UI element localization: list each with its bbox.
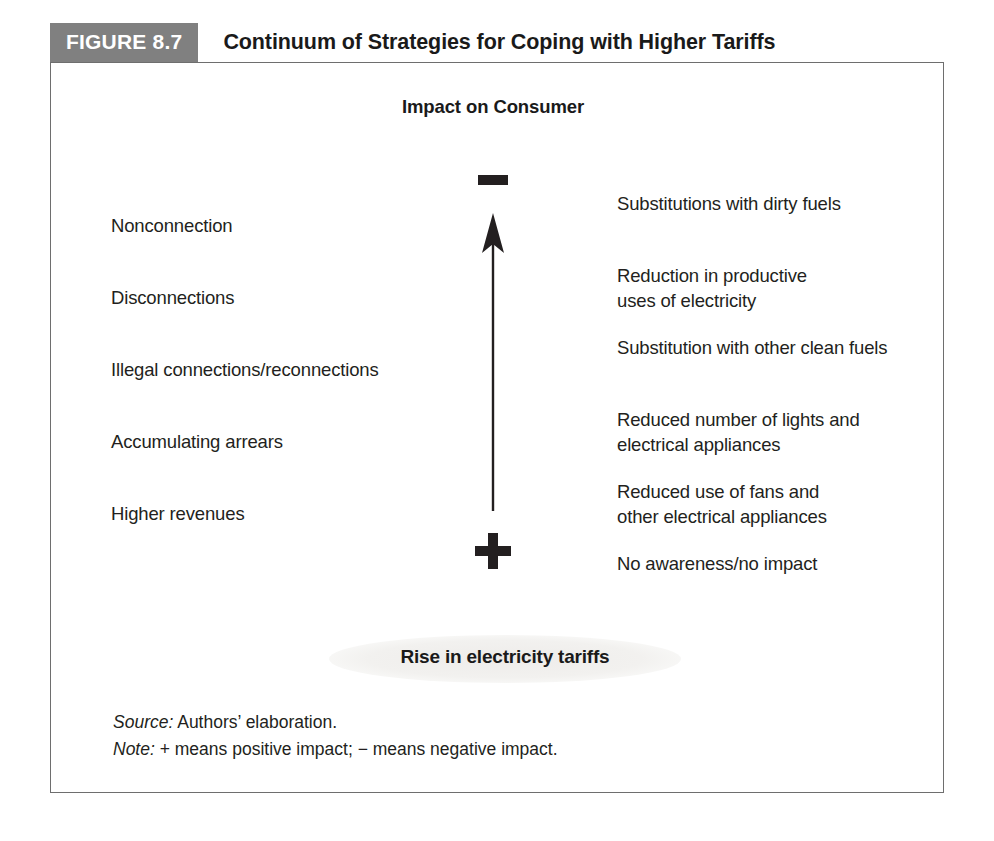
right-strategy-column: Substitutions with dirty fuels Reduction…: [617, 191, 937, 623]
plus-sign: [475, 533, 511, 569]
list-item: No awareness/no impact: [617, 551, 937, 623]
right-item-label-line: Reduced number of lights and: [617, 407, 937, 432]
right-item-label-line: Reduction in productive: [617, 263, 937, 288]
list-item: Higher revenues: [111, 503, 421, 575]
source-line: Source: Authors’ elaboration.: [113, 709, 873, 736]
list-item: Accumulating arrears: [111, 431, 421, 503]
right-item-label-line: No awareness/no impact: [617, 551, 937, 576]
figure-number-badge: FIGURE 8.7: [50, 23, 198, 62]
note-line: Note: + means positive impact; − means n…: [113, 736, 873, 763]
tariff-base-label: Rise in electricity tariffs: [329, 646, 681, 668]
source-text: Authors’ elaboration.: [177, 712, 337, 732]
impact-on-consumer-heading: Impact on Consumer: [51, 96, 945, 118]
impact-on-consumer-heading-text: Impact on Consumer: [402, 96, 584, 117]
figure-frame: Impact on Consumer Nonconnection Disconn…: [50, 62, 944, 793]
left-item-label: Accumulating arrears: [111, 431, 283, 452]
right-item-label-line: Substitutions with dirty fuels: [617, 191, 937, 216]
list-item: Reduced number of lights and electrical …: [617, 407, 937, 479]
right-item-label-line: uses of electricity: [617, 288, 937, 313]
list-item: Reduction in productive uses of electric…: [617, 263, 937, 335]
diagram-canvas: Impact on Consumer Nonconnection Disconn…: [51, 63, 945, 794]
right-item-label-line: Reduced use of fans and: [617, 479, 937, 504]
left-strategy-column: Nonconnection Disconnections Illegal con…: [111, 215, 421, 575]
list-item: Illegal connections/reconnections: [111, 359, 421, 431]
figure-notes: Source: Authors’ elaboration. Note: + me…: [113, 709, 873, 763]
list-item: Substitution with other clean fuels: [617, 335, 937, 407]
note-text: + means positive impact; − means negativ…: [160, 739, 558, 759]
list-item: Nonconnection: [111, 215, 421, 287]
right-item-label-line: Substitution with other clean fuels: [617, 335, 937, 360]
list-item: Reduced use of fans and other electrical…: [617, 479, 937, 551]
left-item-label: Nonconnection: [111, 215, 232, 236]
left-item-label: Illegal connections/reconnections: [111, 359, 379, 380]
source-label: Source:: [113, 712, 173, 732]
left-item-label: Higher revenues: [111, 503, 245, 524]
minus-sign: [478, 175, 508, 185]
plus-sign-vertical-bar: [488, 533, 498, 569]
list-item: Disconnections: [111, 287, 421, 359]
right-item-label-line: other electrical appliances: [617, 504, 937, 529]
note-label: Note:: [113, 739, 155, 759]
upward-arrow-icon: [471, 211, 515, 511]
figure-title: Continuum of Strategies for Coping with …: [198, 23, 775, 62]
left-item-label: Disconnections: [111, 287, 234, 308]
list-item: Substitutions with dirty fuels: [617, 191, 937, 263]
figure-header: FIGURE 8.7 Continuum of Strategies for C…: [50, 23, 944, 62]
right-item-label-line: electrical appliances: [617, 432, 937, 457]
